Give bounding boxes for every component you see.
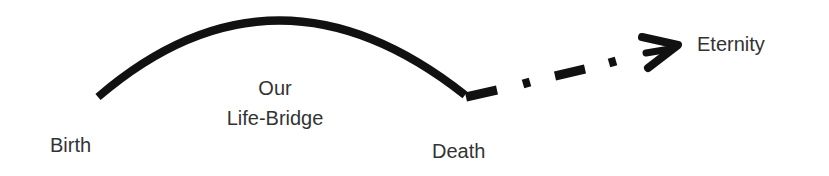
life-bridge-label: Our Life-Bridge [215, 73, 335, 133]
life-bridge-label-line1: Our [215, 73, 335, 103]
eternity-dashed-arrow [466, 61, 616, 97]
life-bridge-label-line2: Life-Bridge [215, 103, 335, 133]
diagram-canvas [0, 0, 829, 176]
eternity-label: Eternity [697, 33, 765, 56]
birth-label: Birth [50, 134, 91, 157]
death-label: Death [432, 140, 485, 163]
